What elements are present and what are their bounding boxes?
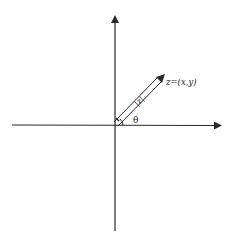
modulus-label: |z|	[133, 95, 146, 108]
theta-label: θ	[133, 115, 138, 125]
point-label: z=(x,y)	[165, 77, 197, 87]
vector-arrowhead-icon	[156, 74, 165, 83]
complex-plane-diagram: |z| θ z=(x,y)	[0, 0, 234, 242]
real-axis	[12, 125, 220, 126]
